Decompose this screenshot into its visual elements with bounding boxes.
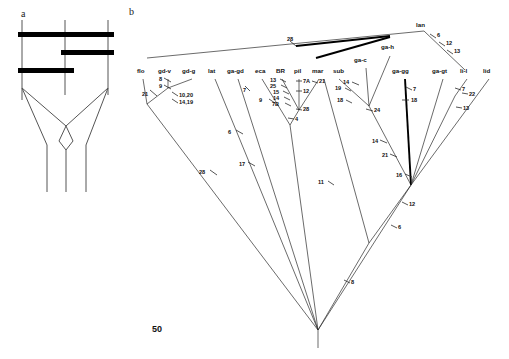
branch-value-21: 14 <box>343 79 350 85</box>
tick-15 <box>283 91 289 94</box>
branch-ga-c <box>366 68 369 106</box>
branch-value-13: 7B <box>272 101 279 107</box>
branch-value-38: 6 <box>398 224 401 230</box>
branch-value-27: 16 <box>396 172 402 178</box>
gagt-lil-lid-fan <box>411 79 489 185</box>
figure-root: a b <box>0 0 509 359</box>
branch-value-19: 4 <box>295 116 299 122</box>
branch-value-22: 19 <box>335 85 341 91</box>
taxon-label-ga-h: ga-h <box>381 43 394 50</box>
taxon-label-sub: sub <box>333 67 344 74</box>
tick-14-lower <box>380 140 387 143</box>
branch-ga-h <box>369 56 390 106</box>
branch-to-BR-clade <box>290 125 318 330</box>
branch-value-14: 9 <box>259 97 262 103</box>
branch-gdg <box>168 79 192 88</box>
taxon-label-pil: pil <box>294 67 301 74</box>
branch-value-2: 9 <box>159 83 162 89</box>
branch-value-20: 11 <box>318 179 324 185</box>
branch-value-15: 7A <box>303 78 310 84</box>
taxon-labels: flo gd-v gd-g lat ga-gd eca BR pil mar s… <box>137 21 490 74</box>
branch-to-ga-gd <box>238 79 318 330</box>
tick-12-root <box>402 202 408 205</box>
branch-value-1: 8 <box>159 76 162 82</box>
lan-backbone <box>147 31 465 70</box>
tick-11 <box>328 181 334 185</box>
branch-root-to-right-node <box>318 185 411 330</box>
branch-value-18: 28 <box>303 106 309 112</box>
branch-ga-gt <box>411 79 443 185</box>
branch-value-24: 24 <box>374 107 381 113</box>
tick-17 <box>248 162 255 166</box>
branch-value-35: 13 <box>454 48 460 54</box>
tick-14-br <box>284 97 290 100</box>
branch-right-internal <box>369 185 411 243</box>
tick-24 <box>366 109 373 111</box>
branch-value-7: 17 <box>239 161 245 167</box>
sub-gac-gah-clade <box>339 56 411 185</box>
branch-value-31: 22 <box>469 91 475 97</box>
taxon-label-gd-g: gd-g <box>182 67 196 74</box>
branch-tick-marks <box>150 34 468 283</box>
taxon-label-mar: mar <box>312 67 324 74</box>
tick-13-right <box>456 107 462 108</box>
tick-22 <box>462 93 468 94</box>
branch-value-26: 21 <box>382 152 388 158</box>
tick-19 <box>345 88 351 91</box>
branch-ga-gt-sub <box>411 96 455 185</box>
branch-value-36: 28 <box>287 36 293 42</box>
tick-21 <box>150 90 157 96</box>
branch-value-3: 10,20 <box>179 92 193 98</box>
branch-value-25: 14 <box>372 138 379 144</box>
branch-to-flo-clade <box>147 104 318 330</box>
tick-28-node <box>296 109 302 110</box>
taxon-label-BR: BR <box>276 67 285 74</box>
branch-value-4: 14,19 <box>179 99 193 105</box>
taxon-label-ga-gd: ga-gd <box>227 67 244 74</box>
taxon-label-flo: flo <box>137 67 145 74</box>
branch-value-29: 18 <box>411 97 417 103</box>
taxon-label-ga-gg: ga-gg <box>392 67 409 74</box>
branch-value-17: 12 <box>303 88 309 94</box>
branch-value-34: 12 <box>446 40 452 46</box>
branch-value-8: 7 <box>243 87 246 93</box>
taxon-label-lan: lan <box>416 21 425 28</box>
taxon-label-ga-c: ga-c <box>354 56 367 63</box>
taxon-label-li-l: li-l <box>460 67 467 74</box>
tick-12-lan <box>439 42 445 46</box>
tick-1419 <box>172 99 178 103</box>
taxon-label-ga-gt: ga-gt <box>432 67 447 74</box>
thick-branch-ga-gg <box>405 79 411 185</box>
scale-bar-label: 50 <box>152 324 162 334</box>
tick-21-lower <box>390 154 397 157</box>
tick-14-sub <box>352 82 359 85</box>
branch-value-33: 6 <box>437 32 440 38</box>
tick-4 <box>288 118 294 119</box>
branch-value-16: 21 <box>319 78 325 84</box>
branch-value-30: 7 <box>462 86 465 92</box>
tick-6-root <box>391 225 397 228</box>
branch-value-6: 6 <box>228 129 231 135</box>
left-clade-group <box>147 79 369 330</box>
branch-value-5: 28 <box>199 169 205 175</box>
tick-8 <box>164 78 171 82</box>
branch-lid <box>411 79 489 185</box>
branch-subclade-stem <box>369 106 411 185</box>
branch-value-28: 7 <box>413 86 416 92</box>
branch-to-lat <box>215 79 318 330</box>
taxon-label-lat: lat <box>208 67 215 74</box>
tick-18-sub <box>346 100 352 103</box>
branch-value-23: 18 <box>337 97 343 103</box>
branch-value-32: 13 <box>463 105 469 111</box>
branch-to-sub-clade-long <box>324 79 369 243</box>
tick-7-gagg <box>406 87 412 90</box>
branch-value-0: 21 <box>142 91 148 97</box>
branch-to-right-clade <box>318 243 369 330</box>
branch-value-39: 8 <box>351 279 354 285</box>
taxon-label-lid: lid <box>483 67 490 74</box>
branch-value-37: 12 <box>409 201 415 207</box>
tick-7B <box>285 103 291 106</box>
taxon-label-eca: eca <box>255 67 266 74</box>
tick-28-left <box>210 170 217 175</box>
panel-b-phylogram: flo gd-v gd-g lat ga-gd eca BR pil mar s… <box>0 0 509 359</box>
